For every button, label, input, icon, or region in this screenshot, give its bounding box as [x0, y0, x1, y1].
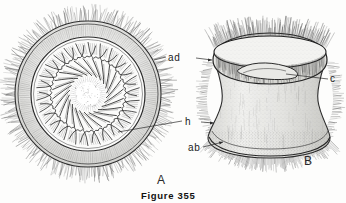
- figure-page: ad c h ab A B Figure 355: [0, 0, 346, 203]
- panel-letter-a: A: [157, 174, 166, 186]
- label-ab: ab: [188, 143, 200, 153]
- arrowhead-ad: [208, 58, 212, 61]
- label-h: h: [185, 117, 191, 127]
- scientific-illustration: [0, 0, 346, 203]
- label-ad: ad: [168, 53, 180, 63]
- panel-letter-b: B: [304, 155, 313, 167]
- panel-b-drawing: [196, 16, 345, 173]
- label-c: c: [330, 74, 336, 84]
- figure-caption: Figure 355: [141, 191, 196, 201]
- panel-a-drawing: [0, 4, 182, 183]
